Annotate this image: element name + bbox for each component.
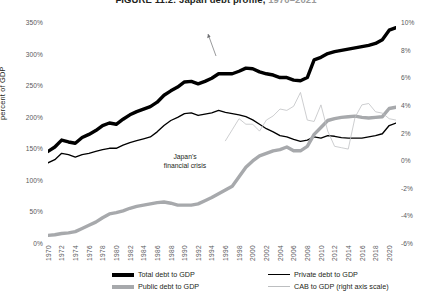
x-axis-tick: 2000	[249, 245, 256, 261]
x-axis-tick: 1996	[222, 245, 229, 261]
y-axis-left-tick: 350%	[26, 22, 43, 29]
y-axis-left-tick: 250%	[26, 85, 43, 92]
x-axis-tick: 1994	[208, 245, 215, 261]
legend-swatch-line-icon	[112, 285, 134, 289]
figure-title-years: 1970–2021	[268, 0, 316, 5]
y-axis-right-tick: 6%	[401, 77, 411, 84]
y-axis-left-tick: 150%	[26, 148, 43, 155]
legend-item-cab: CAB to GDP (right axis scale)	[268, 282, 389, 291]
x-axis-tick: 2014	[345, 245, 352, 261]
y-axis-left-tick: 100%	[26, 180, 43, 187]
x-axis-tick: 1976	[86, 245, 93, 261]
x-axis-tick: 2012	[331, 245, 338, 261]
legend-label: Public debt to GDP	[138, 282, 199, 291]
y-axis-left-tick: 50%	[30, 211, 44, 218]
y-axis-right-tick: 10%	[401, 22, 415, 29]
x-axis-tick: 2010	[318, 245, 325, 261]
annotation-line-1: Japan's	[148, 152, 222, 161]
x-axis-tick: 1986	[154, 245, 161, 261]
chart-legend: Total debt to GDP Public debt to GDP Pri…	[0, 268, 432, 298]
x-axis-tick: 1990	[181, 245, 188, 261]
y-axis-left-tick: 300%	[26, 54, 43, 61]
x-axis-tick: 2016	[359, 245, 366, 261]
x-axis-tick: 1978	[99, 245, 106, 261]
annotation-leader-line	[208, 34, 216, 56]
legend-item-private-debt: Private debt to GDP	[268, 270, 358, 279]
y-axis-right-tick: -2%	[401, 188, 413, 195]
legend-item-total-debt: Total debt to GDP	[112, 270, 195, 279]
y-axis-right-tick: 8%	[401, 50, 411, 57]
x-axis-tick: 1988	[168, 245, 175, 261]
annotation-japan-financial-crisis: Japan's financial crisis	[148, 152, 222, 170]
y-axis-right-tick: 2%	[401, 133, 411, 140]
x-axis-tick: 1972	[58, 245, 65, 261]
figure-title: FIGURE 11.2: Japan debt profile, 1970–20…	[0, 0, 432, 5]
x-axis-tick: 1982	[127, 245, 134, 261]
x-axis-tick: 2002	[263, 245, 270, 261]
legend-label: Private debt to GDP	[294, 270, 358, 279]
x-axis-tick: 2006	[290, 245, 297, 261]
legend-swatch-line-icon	[268, 286, 290, 287]
y-axis-left-tick: 0%	[33, 243, 43, 250]
legend-swatch-line-icon	[268, 274, 290, 276]
legend-item-public-debt: Public debt to GDP	[112, 282, 199, 291]
x-axis-tick: 1992	[195, 245, 202, 261]
figure-container: FIGURE 11.2: Japan debt profile, 1970–20…	[0, 0, 432, 298]
annotation-arrowhead	[207, 34, 210, 38]
x-axis-tick: 1974	[72, 245, 79, 261]
y-axis-right-tick: 4%	[401, 105, 411, 112]
chart-svg	[48, 22, 396, 243]
x-axis-tick: 2018	[372, 245, 379, 261]
annotation-line-2: financial crisis	[148, 161, 222, 170]
legend-label: Total debt to GDP	[138, 270, 195, 279]
figure-title-text: FIGURE 11.2: Japan debt profile,	[115, 0, 268, 5]
x-axis-tick: 1984	[140, 245, 147, 261]
x-axis-tick: 2004	[277, 245, 284, 261]
x-axis-tick: 1970	[45, 245, 52, 261]
series-line	[48, 28, 396, 152]
y-axis-label: percent of GDP	[0, 66, 7, 120]
x-axis-tick: 1980	[113, 245, 120, 261]
y-axis-right-tick: -6%	[401, 243, 413, 250]
x-axis-tick: 2008	[304, 245, 311, 261]
x-axis-tick: 1998	[236, 245, 243, 261]
y-axis-right-tick: -4%	[401, 215, 413, 222]
plot-area: 350%300%250%200%150%100%50%0% 10%8%6%4%2…	[48, 22, 396, 243]
y-axis-left-tick: 200%	[26, 117, 43, 124]
y-axis-right-tick: 0%	[401, 160, 411, 167]
legend-swatch-line-icon	[112, 273, 134, 277]
x-axis-tick: 2020	[386, 245, 393, 261]
legend-label: CAB to GDP (right axis scale)	[294, 282, 389, 291]
